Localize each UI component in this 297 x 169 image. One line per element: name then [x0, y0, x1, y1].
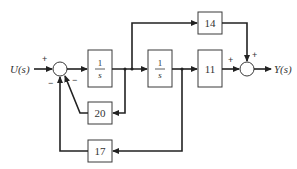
svg-text:s: s — [158, 70, 162, 80]
wire-to-gain20 — [113, 69, 125, 113]
input-label: U(s) — [10, 63, 30, 76]
gain17-to-sum1 — [60, 77, 88, 151]
sum1-minus-sign-20: − — [72, 75, 77, 85]
gain-block-14: 14 — [198, 12, 222, 34]
svg-text:1: 1 — [158, 58, 163, 68]
sum2-plus-sign-11: + — [228, 55, 233, 65]
svg-text:1: 1 — [98, 58, 103, 68]
svg-text:17: 17 — [95, 145, 107, 157]
sum1-plus-sign: + — [42, 54, 47, 64]
gain14-to-sum2 — [222, 23, 247, 61]
svg-text:s: s — [98, 70, 102, 80]
summing-junction-1 — [53, 62, 67, 76]
gain-block-20: 20 — [88, 102, 112, 124]
block-diagram: U(s) + − − 1 s 14 20 1 s — [0, 0, 297, 169]
svg-text:14: 14 — [205, 17, 217, 29]
gain-block-11: 11 — [198, 50, 222, 87]
sum2-plus-sign-14: + — [252, 50, 257, 60]
integrator-block-2: 1 s — [148, 50, 172, 87]
gain-block-17: 17 — [88, 140, 112, 162]
svg-text:11: 11 — [205, 63, 216, 75]
sum1-minus-sign-17: − — [48, 78, 53, 88]
svg-text:20: 20 — [95, 107, 107, 119]
output-label: Y(s) — [274, 63, 292, 76]
summing-junction-2 — [240, 62, 254, 76]
integrator-block-1: 1 s — [88, 50, 112, 87]
